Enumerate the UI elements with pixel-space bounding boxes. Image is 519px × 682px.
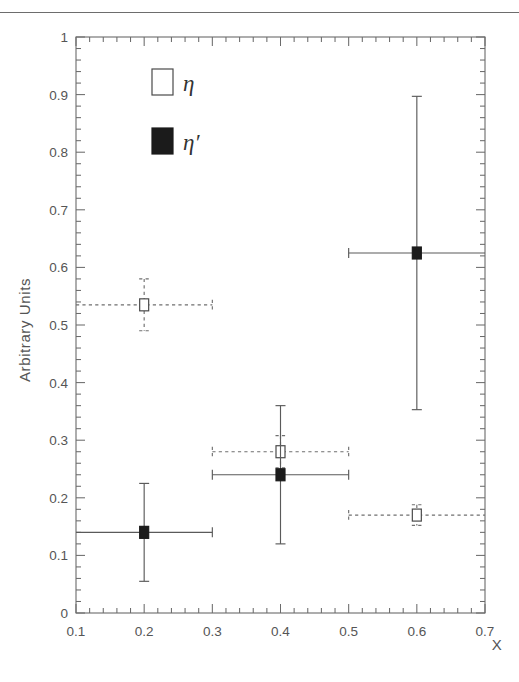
marker-open-square — [140, 299, 149, 311]
legend-item: η′ — [152, 128, 200, 155]
marker-filled-square — [412, 247, 421, 259]
y-tick-label: 0.9 — [49, 88, 68, 103]
legend-item: η — [152, 69, 194, 96]
legend-label: η — [183, 71, 194, 96]
x-tick-label: 0.2 — [135, 624, 154, 639]
scatter-plot: 00.10.20.30.40.50.60.70.80.91 0.10.20.30… — [0, 0, 519, 682]
legend-label: η′ — [183, 130, 200, 155]
y-tick-label: 0.7 — [49, 203, 68, 218]
y-tick-label: 0.1 — [49, 548, 68, 563]
figure-container: 00.10.20.30.40.50.60.70.80.91 0.10.20.30… — [0, 0, 519, 682]
x-axis: 0.10.20.30.40.50.60.7 — [67, 37, 495, 639]
y-tick-label: 0.8 — [49, 145, 68, 160]
y-tick-label: 0.2 — [49, 491, 68, 506]
y-tick-label: 0.3 — [49, 433, 68, 448]
data-point — [349, 505, 485, 526]
x-tick-label: 0.6 — [407, 624, 426, 639]
x-tick-label: 0.3 — [203, 624, 222, 639]
data-point — [76, 483, 212, 581]
x-tick-label: 0.5 — [339, 624, 358, 639]
legend-marker-open-square — [152, 69, 173, 95]
y-tick-label: 1 — [60, 30, 68, 45]
data-point — [212, 406, 348, 544]
y-tick-label: 0.6 — [49, 260, 68, 275]
x-axis-title: X — [492, 636, 503, 653]
series-eta-prime — [76, 96, 485, 581]
data-point — [76, 279, 212, 331]
marker-filled-square — [276, 469, 285, 481]
legend: ηη′ — [152, 69, 200, 155]
marker-filled-square — [140, 526, 149, 538]
y-tick-label: 0.5 — [49, 318, 68, 333]
x-tick-label: 0.1 — [67, 624, 86, 639]
marker-open-square — [412, 509, 421, 521]
x-tick-label: 0.4 — [271, 624, 290, 639]
legend-marker-filled-square — [152, 128, 173, 154]
y-tick-label: 0 — [60, 606, 68, 621]
y-tick-label: 0.4 — [49, 376, 68, 391]
data-series-layer — [76, 96, 485, 581]
data-point — [349, 96, 485, 409]
y-axis-title: Arbitrary Units — [16, 278, 33, 382]
